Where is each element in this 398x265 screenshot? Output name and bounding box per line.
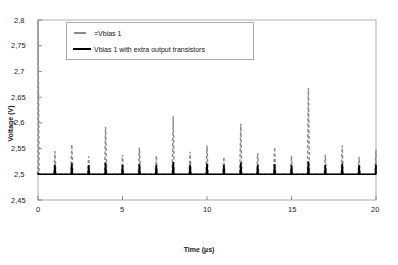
x-tick-label-0: 0: [36, 205, 40, 214]
legend-entry-vbias1-extra: Vbias 1 with extra output transistors: [73, 43, 205, 55]
y-axis-title: Voltage (V): [7, 92, 14, 156]
y-tick-label-2-5: 2,5: [14, 170, 24, 179]
x-tick-label-20: 20: [371, 205, 379, 214]
y-tick-label-2-8: 2,8: [14, 16, 24, 25]
y-tick-label-2-75: 2,75: [11, 41, 26, 50]
x-axis-title: Time (µs): [0, 246, 398, 253]
x-tick-label-5: 5: [120, 205, 124, 214]
solid-line-icon: [73, 45, 91, 53]
chart-legend: =Vbias 1 Vbias 1 with extra output trans…: [66, 22, 254, 60]
legend-entry-vbias1: =Vbias 1: [73, 27, 121, 39]
legend-label-vbias1-extra: Vbias 1 with extra output transistors: [94, 46, 205, 53]
legend-label-vbias1: =Vbias 1: [94, 30, 121, 37]
x-tick-label-10: 10: [203, 205, 211, 214]
x-tick-label-15: 15: [288, 205, 296, 214]
dashed-line-icon: [73, 29, 91, 37]
y-axis-title-wrap: Voltage (V): [4, 96, 16, 160]
y-tick-label-2-7: 2,7: [14, 67, 24, 76]
y-tick-label-2-45: 2,45: [11, 196, 26, 205]
chart-figure: 2,8 2,75 2,7 2,65 2,6 2,55 2,5 2,45 0 5 …: [0, 0, 398, 265]
